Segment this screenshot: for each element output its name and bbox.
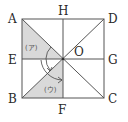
label-h: H <box>58 4 68 18</box>
square-diagram: A H D E O G B F C (ア) (ウ) <box>0 0 128 122</box>
label-o: O <box>74 45 84 59</box>
label-d: D <box>108 12 118 26</box>
label-f: F <box>58 103 66 117</box>
label-e: E <box>8 53 17 67</box>
center-point-o <box>62 58 65 61</box>
label-g: G <box>108 53 118 67</box>
region-label-a: (ア) <box>25 44 38 52</box>
label-c: C <box>108 92 117 106</box>
label-a: A <box>7 12 17 26</box>
region-label-u: (ウ) <box>44 86 57 94</box>
label-b: B <box>8 92 17 106</box>
